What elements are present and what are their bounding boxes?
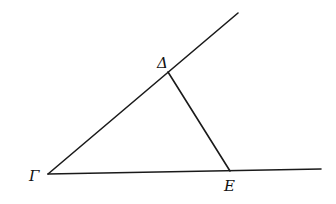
label-delta: Δ (156, 54, 168, 72)
geometry-diagram: Γ Δ E (0, 0, 336, 204)
label-epsilon: E (223, 177, 235, 195)
line-gamma-delta-extended (48, 13, 238, 174)
line-gamma-epsilon-extended (48, 169, 321, 174)
label-gamma: Γ (28, 167, 40, 185)
segment-delta-epsilon (168, 72, 230, 171)
